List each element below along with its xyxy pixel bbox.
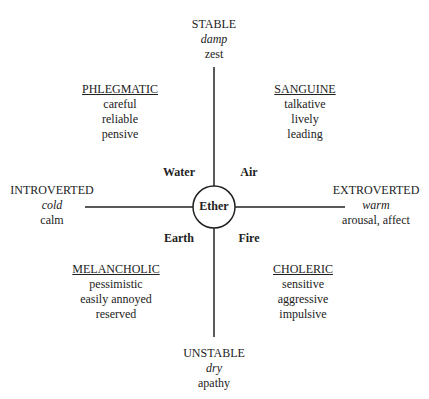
axis-left-quality: cold — [10, 198, 93, 213]
axis-right: EXTROVERTED warm arousal, affect — [333, 183, 420, 228]
axis-top: STABLE damp zest — [192, 17, 236, 62]
temperament-trait: aggressive — [273, 292, 333, 307]
temperament-phlegmatic: PHLEGMATIC careful reliable pensive — [82, 82, 158, 142]
axis-top-quality: damp — [192, 32, 236, 47]
temperament-trait: pensive — [82, 127, 158, 142]
axis-left-label: INTROVERTED — [10, 183, 93, 198]
temperament-trait: sensitive — [273, 277, 333, 292]
temperament-melancholic: MELANCHOLIC pessimistic easily annoyed r… — [72, 262, 159, 322]
axis-left-trait: calm — [10, 213, 93, 228]
temperament-name: SANGUINE — [274, 82, 335, 97]
axis-right-trait: arousal, affect — [333, 213, 420, 228]
temperament-trait: easily annoyed — [72, 292, 159, 307]
axis-bottom-quality: dry — [183, 361, 245, 376]
element-air: Air — [240, 165, 257, 180]
temperament-name: MELANCHOLIC — [72, 262, 159, 277]
element-water: Water — [163, 165, 195, 180]
temperament-trait: reserved — [72, 307, 159, 322]
temperament-sanguine: SANGUINE talkative lively leading — [274, 82, 335, 142]
temperament-choleric: CHOLERIC sensitive aggressive impulsive — [273, 262, 333, 322]
axis-right-label: EXTROVERTED — [333, 183, 420, 198]
element-fire: Fire — [238, 231, 259, 246]
temperament-trait: pessimistic — [72, 277, 159, 292]
axis-right-quality: warm — [333, 198, 420, 213]
axis-bottom-trait: apathy — [183, 376, 245, 391]
axis-bottom-label: UNSTABLE — [183, 346, 245, 361]
axis-top-trait: zest — [192, 47, 236, 62]
center-label: Ether — [199, 199, 228, 214]
temperament-trait: reliable — [82, 112, 158, 127]
temperament-trait: leading — [274, 127, 335, 142]
axis-bottom: UNSTABLE dry apathy — [183, 346, 245, 391]
temperament-trait: impulsive — [273, 307, 333, 322]
temperament-trait: lively — [274, 112, 335, 127]
axis-left: INTROVERTED cold calm — [10, 183, 93, 228]
temperament-name: PHLEGMATIC — [82, 82, 158, 97]
element-earth: Earth — [164, 231, 194, 246]
axis-top-label: STABLE — [192, 17, 236, 32]
temperament-trait: talkative — [274, 97, 335, 112]
temperament-name: CHOLERIC — [273, 262, 333, 277]
temperament-trait: careful — [82, 97, 158, 112]
